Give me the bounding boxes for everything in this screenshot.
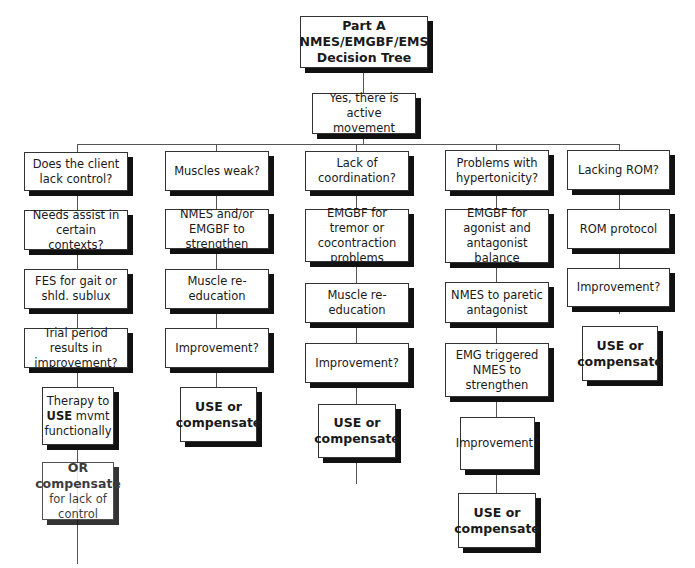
node-emgbf-tremor: EMGBF for tremor or cocontraction proble… [305, 209, 409, 262]
node-label: Improvement? [456, 436, 539, 451]
title-line-3: Decision Tree [300, 50, 429, 66]
node-use-or-compensate: USE or compensate [458, 493, 536, 548]
node-label: Muscles weak? [174, 164, 260, 179]
node-hypertonicity: Problems with hypertonicity? [445, 150, 549, 191]
title-line-1: Part A [300, 18, 429, 34]
node-label: FES for gait or shld. sublux [28, 274, 124, 304]
node-label: Improvement? [577, 280, 660, 295]
outcome-label: USE or compensate [577, 338, 663, 370]
node-improvement: Improvement? [165, 328, 269, 368]
node-label: Muscle re-education [309, 288, 405, 318]
node-label: Problems with hypertonicity? [449, 156, 545, 186]
node-use-or-compensate: USE or compensate [582, 326, 658, 381]
connector-horizontal-bus [77, 144, 619, 145]
node-lack-coordination: Lack of coordination? [305, 151, 409, 191]
node-label: Trial period results in improvement? [28, 326, 124, 371]
node-label: NMES and/or EMGBF to strengthen [169, 207, 265, 252]
root-node: Yes, there is active movement [312, 93, 416, 134]
therapy-keyword: USE [47, 409, 72, 423]
node-use-or-compensate: USE or compensate [180, 387, 257, 442]
node-label: EMGBF for tremor or cocontraction proble… [309, 206, 405, 266]
node-therapy-use: Therapy to USE mvmt functionally [42, 387, 114, 445]
node-nmes-paretic: NMES to paretic antagonist [445, 282, 549, 323]
node-use-or-compensate: USE or compensate [318, 404, 396, 458]
node-emgbf-agonist: EMGBF for agonist and antagonist balance [445, 209, 549, 263]
node-label: NMES to paretic antagonist [449, 288, 545, 318]
outcome-label: USE or compensate [454, 505, 540, 537]
node-emg-triggered: EMG triggered NMES to strengthen [445, 343, 549, 397]
node-lacking-rom: Lacking ROM? [567, 150, 670, 190]
node-nmes-strengthen: NMES and/or EMGBF to strengthen [165, 209, 269, 249]
node-fes-gait: FES for gait or shld. sublux [24, 269, 128, 309]
title-box: Part A NMES/EMGBF/EMS Decision Tree [300, 16, 428, 68]
connector-title-root [363, 67, 364, 94]
node-lack-control: Does the client lack control? [24, 152, 128, 191]
compensate-detail: for lack of control [35, 492, 121, 522]
node-trial-period: Trial period results in improvement? [24, 328, 128, 368]
node-label: EMG triggered NMES to strengthen [449, 348, 545, 393]
node-improvement: Improvement? [460, 417, 535, 470]
node-needs-assist: Needs assist in certain contexts? [24, 210, 128, 250]
node-label: ROM protocol [580, 222, 658, 237]
node-label: Muscle re-education [169, 274, 265, 304]
outcome-label: USE or compensate [176, 399, 262, 431]
node-label: Does the client lack control? [28, 157, 124, 187]
title-line-2: NMES/EMGBF/EMS [300, 34, 429, 50]
node-label: Needs assist in certain contexts? [28, 208, 124, 253]
root-node-label: Yes, there is active movement [316, 91, 412, 136]
node-muscle-reeducation: Muscle re-education [165, 269, 269, 309]
node-or-compensate: OR compensate for lack of control [42, 462, 114, 520]
compensate-keyword: compensate [35, 476, 121, 492]
therapy-before: Therapy to [44, 394, 111, 409]
node-muscles-weak: Muscles weak? [165, 151, 269, 191]
node-rom-protocol: ROM protocol [567, 209, 670, 249]
node-improvement: Improvement? [567, 268, 670, 307]
node-label: EMGBF for agonist and antagonist balance [449, 206, 545, 266]
node-muscle-reeducation: Muscle re-education [305, 283, 409, 323]
node-label: Improvement? [315, 356, 398, 371]
outcome-label: USE or compensate [314, 415, 400, 447]
compensate-or: OR [35, 460, 121, 476]
node-improvement: Improvement? [305, 343, 409, 383]
node-label: Lack of coordination? [309, 156, 405, 186]
node-label: Improvement? [175, 341, 258, 356]
node-label: Lacking ROM? [578, 163, 659, 178]
